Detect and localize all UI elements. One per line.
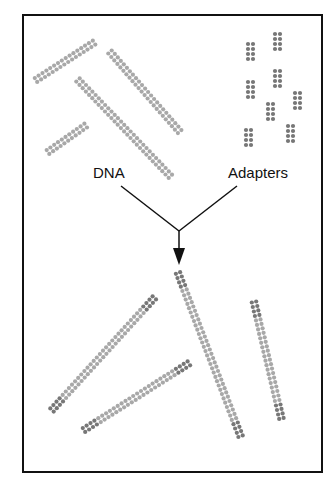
ligated-dot [184, 366, 188, 370]
ligated-dot [259, 341, 263, 345]
ligated-dot [89, 362, 93, 366]
ligated-dot [151, 382, 155, 386]
ligated-dot [70, 389, 74, 393]
dna-base-dot [75, 49, 79, 53]
ligated-dot [141, 304, 145, 308]
ligated-dot [213, 360, 217, 364]
dna-base-dot [143, 87, 147, 91]
ligated-dot [200, 340, 204, 344]
dna-base-dot [109, 110, 113, 114]
dna-base-dot [109, 116, 113, 120]
ligated-dot [64, 396, 68, 400]
ligated-dot [235, 431, 239, 435]
arrow-down-icon [173, 248, 185, 265]
ligated-dot [224, 390, 228, 394]
ligated-dot [228, 414, 232, 418]
ligated-dot [80, 379, 84, 383]
ligated-dot [258, 336, 262, 340]
ligated-dot [92, 419, 96, 423]
ligated-dot [110, 338, 114, 342]
ligated-dot [193, 309, 197, 313]
dna-base-dot [48, 66, 52, 70]
ligated-dot [147, 298, 151, 302]
dna-base-dot [154, 163, 158, 167]
ligated-dot [273, 399, 277, 403]
ligated-dot [209, 352, 213, 356]
ligated-dot [266, 349, 270, 353]
dna-base-dot [161, 114, 165, 118]
ligated-dot [123, 399, 127, 403]
dna-base-dot [170, 173, 174, 177]
adapter-dot [246, 85, 250, 89]
adapters-branch-line [179, 186, 237, 231]
ligated-dot [194, 323, 198, 327]
ligated-dot [114, 410, 118, 414]
dna-base-dot [164, 111, 168, 115]
ligated-dot [185, 287, 189, 291]
dna-base-dot [59, 144, 63, 148]
ligated-dot [126, 403, 130, 407]
ligated-dot [203, 349, 207, 353]
dna-base-dot [109, 55, 113, 59]
dna-base-dot [84, 83, 88, 87]
adapter-dot [251, 42, 255, 46]
dna-base-dot [97, 96, 101, 100]
adapter-dot [278, 79, 282, 83]
ligated-dot [180, 368, 184, 372]
ligated-dot [226, 409, 230, 413]
ligated-dot [104, 352, 108, 356]
ligated-dot [197, 332, 201, 336]
adapter-dot [244, 133, 248, 137]
ligated-dot [138, 314, 142, 318]
dna-base-dot [158, 104, 162, 108]
ligated-dot [234, 416, 238, 420]
ligated-dot [225, 405, 229, 409]
adapter-dot [273, 74, 277, 78]
dna-base-dot [79, 46, 83, 50]
ligated-dot [129, 318, 133, 322]
ligated-dot [263, 335, 267, 339]
dna-base-dot [60, 59, 64, 63]
adapter-dot [266, 117, 270, 121]
figure-border [23, 15, 322, 472]
ligated-dot [198, 322, 202, 326]
adapter-dot [271, 112, 275, 116]
ligated-dot [253, 314, 257, 318]
dna-base-dot [37, 74, 41, 78]
dna-base-dot [100, 100, 104, 104]
ligated-dot [251, 305, 255, 309]
dna-base-dot [94, 93, 98, 97]
dna-base-dot [113, 52, 117, 56]
dna-base-dot [125, 133, 129, 137]
adapter-dot [286, 134, 290, 138]
ligated-dot [98, 352, 102, 356]
ligated-dot [201, 330, 205, 334]
dna-base-dot [131, 73, 135, 77]
ligated-dot [151, 301, 155, 305]
adapter-dot [293, 106, 297, 110]
ligated-dot [268, 377, 272, 381]
adapter-dot [278, 42, 282, 46]
ligated-dot [270, 386, 274, 390]
ligated-dot [135, 311, 139, 315]
ligated-dot [273, 380, 277, 384]
ligated-dot [257, 332, 261, 336]
ligated-dot [135, 391, 139, 395]
adapter-dot [244, 143, 248, 147]
ligated-dot [110, 413, 114, 417]
dna-base-dot [112, 58, 116, 62]
adapter-dot [246, 95, 250, 99]
adapter-dot [251, 52, 255, 56]
dna-base-dot [161, 107, 165, 111]
adapter-dot [298, 96, 302, 100]
dna-base-dot [74, 55, 78, 59]
ligated-dot [258, 317, 262, 321]
adapter-dot [244, 128, 248, 132]
dna-base-dot [87, 86, 91, 90]
dna-base-dot [91, 39, 95, 43]
dna-base-dot [141, 143, 145, 147]
dna-base-dot [63, 135, 67, 139]
dna-base-dot [125, 66, 129, 70]
ligated-dot [76, 382, 80, 386]
dna-base-dot [119, 126, 123, 130]
